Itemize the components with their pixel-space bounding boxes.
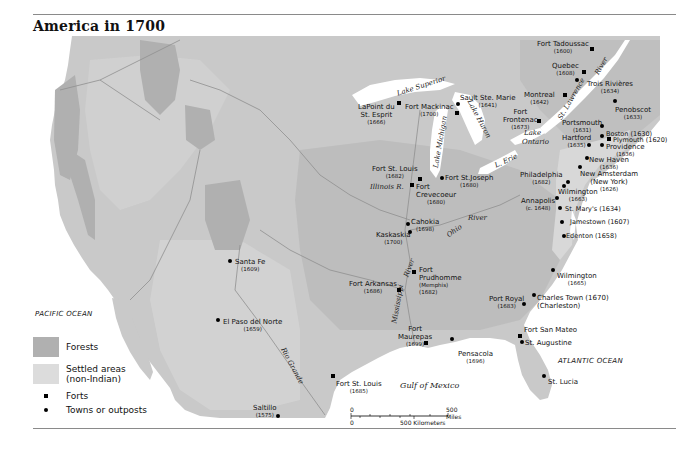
legend-forests: Forests <box>33 337 98 357</box>
place-st-augustine: St. Augustine <box>525 339 572 347</box>
legend-forts: Forts <box>33 391 88 401</box>
fort-square-icon <box>33 394 59 398</box>
place-philadelphia: Philadelphia(1682) <box>520 171 563 186</box>
fort-marker-lapointe <box>397 101 401 105</box>
town-marker-new-amsterdam <box>578 165 582 169</box>
place-el-paso: El Paso del Norte(1659) <box>223 318 282 333</box>
place-santa-fe: Santa Fe(1609) <box>235 258 265 273</box>
place-montreal: Montreal(1642) <box>524 91 555 106</box>
place-cahokia: Cahokia(1698) <box>411 218 439 233</box>
place-port-royal: Port Royal(1683) <box>489 295 524 310</box>
lake-ontario-label-2: Ontario <box>522 138 549 146</box>
place-saltillo: Saltillo(1575) <box>253 404 277 419</box>
place-fort-mackinac: Fort Mackinac(1700) <box>405 103 454 118</box>
place-fort-st-joseph: Fort St.Joseph(1680) <box>445 174 494 189</box>
place-fort-st-louis-tx: Fort St. Louis(1685) <box>336 380 382 395</box>
place-new-haven: New Haven(1636) <box>589 156 629 171</box>
place-pensacola: Pensacola(1696) <box>458 350 493 365</box>
legend-towns: Towns or outposts <box>33 405 147 415</box>
fort-marker-arkansas <box>397 288 401 292</box>
town-marker-providence <box>600 143 604 147</box>
place-portsmouth: Portsmouth(1631) <box>562 119 602 134</box>
town-marker-santa-fe <box>228 259 232 263</box>
town-marker-st-augustine <box>520 340 524 344</box>
gulf-of-mexico-label: Gulf of Mexico <box>400 381 459 390</box>
place-jamestown: Jamestown (1607) <box>570 218 629 226</box>
fort-marker-st-louis-il <box>418 177 422 181</box>
place-hartford: Hartford(1635) <box>562 134 591 149</box>
fort-marker-st-louis-tx <box>331 374 335 378</box>
fort-marker-montreal <box>563 93 567 97</box>
town-marker-jamestown <box>560 220 564 224</box>
place-quebec: Quebec(1608) <box>552 62 579 77</box>
town-marker-annapolis <box>555 196 559 200</box>
place-penobscot: Penobscot(1633) <box>615 106 651 121</box>
place-fort-frontenac: FortFrontenac(1673) <box>503 108 538 131</box>
place-charles-town: Charles Town (1670)(Charleston) <box>537 294 609 310</box>
place-wilmington-de: Wilmington(1663) <box>558 188 598 203</box>
fort-marker-mackinac <box>455 111 459 115</box>
atlantic-ocean-label: ATLANTIC OCEAN <box>558 357 623 365</box>
town-marker-trois-rivieres <box>575 78 579 82</box>
fort-marker-quebec <box>582 70 586 74</box>
fort-marker-plymouth <box>607 137 611 141</box>
pacific-ocean-label: PACIFIC OCEAN <box>35 310 93 318</box>
place-kaskaskia: Kaskaskia(1700) <box>376 231 411 246</box>
town-marker-boston <box>600 134 604 138</box>
town-marker-st-marys <box>558 206 562 210</box>
place-sault-ste-marie: Sault Ste. Marie(1641) <box>460 94 516 109</box>
town-dot-icon <box>33 408 59 412</box>
town-marker-wilmington-nc <box>551 268 555 272</box>
place-wilmington-nc: Wilmington(1665) <box>557 272 597 287</box>
settled-swatch <box>33 364 59 384</box>
fort-marker-san-mateo <box>518 334 522 338</box>
town-marker-charles-town <box>532 293 536 297</box>
town-marker-penobscot <box>613 99 617 103</box>
place-fort-san-mateo: Fort San Mateo <box>524 326 577 334</box>
place-annapolis: Annapolis(c. 1648) <box>521 197 555 212</box>
town-marker-el-paso <box>216 318 220 322</box>
fort-marker-tadoussac <box>590 47 594 51</box>
place-st-lucia: St. Lucia <box>548 378 578 386</box>
town-marker-philadelphia <box>566 180 570 184</box>
place-fort-st-louis-il: Fort St. Louis(1682) <box>372 165 418 180</box>
forests-swatch <box>33 337 59 357</box>
legend-settled: Settled areas(non-Indian) <box>33 364 126 384</box>
place-trois-rivieres: Trois Rivières(1634) <box>587 80 633 95</box>
town-marker-st-joseph <box>440 176 444 180</box>
town-marker-cahokia <box>406 222 410 226</box>
place-st-marys: St. Mary's (1634) <box>565 205 621 213</box>
fort-marker-prudhomme <box>412 270 416 274</box>
town-marker-pensacola <box>450 337 454 341</box>
ohio-river-label-2: River <box>468 214 487 222</box>
town-marker-st-lucia <box>542 374 546 378</box>
place-fort-maurepas: FortMaurepas(1699) <box>398 325 432 348</box>
place-fort-arkansas: Fort Arkansas(1686) <box>349 280 397 295</box>
place-edenton: Edenton (1658) <box>566 232 617 240</box>
town-marker-saltillo <box>276 414 280 418</box>
fort-marker-crevecoeur <box>410 183 414 187</box>
illinois-river-label: Illinois R. <box>370 183 404 191</box>
place-fort-prudhomme: FortPrudhomme(Memphis)(1682) <box>419 266 462 296</box>
place-fort-tadoussac: Fort Tadoussac(1600) <box>537 40 589 55</box>
place-lapointe: LaPoint duSt. Esprit(1666) <box>358 103 395 126</box>
